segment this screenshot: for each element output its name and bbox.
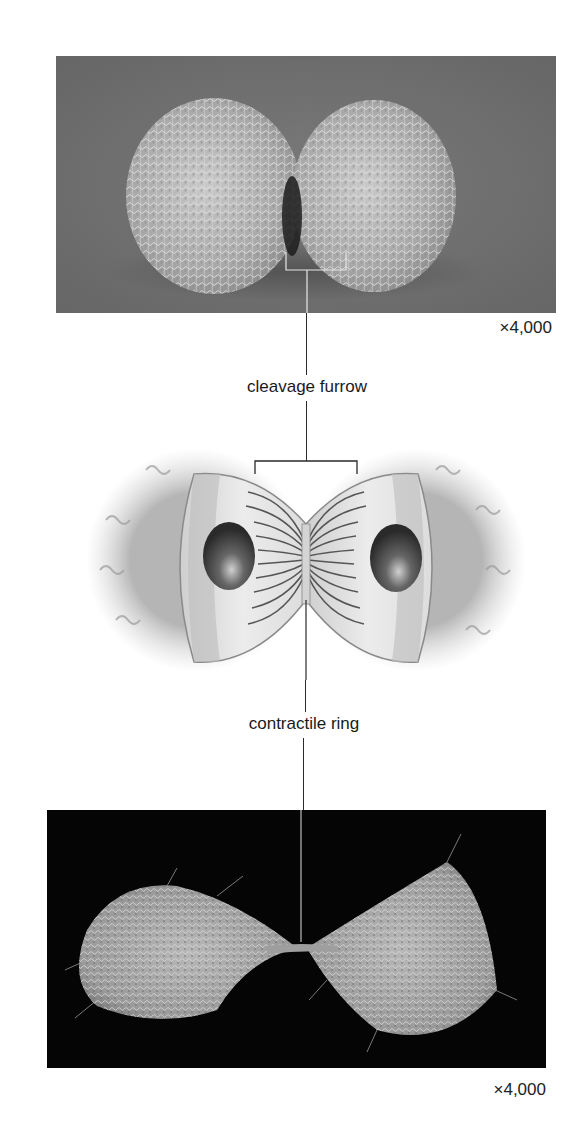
bottom-micrograph <box>47 810 546 1068</box>
top-micrograph <box>56 56 556 313</box>
contractile-ring-leader-line <box>305 680 306 712</box>
contractile-ring-diagram <box>86 440 526 680</box>
contractile-ring-leader-line-lower <box>303 738 304 810</box>
contractile-ring-label: contractile ring <box>249 714 360 734</box>
top-magnification: ×4,000 <box>500 318 552 338</box>
dividing-cell-illustration <box>86 440 526 680</box>
bottom-magnification: ×4,000 <box>494 1080 546 1100</box>
cleavage-furrow-label: cleavage furrow <box>247 377 367 397</box>
daughter-cells-sem-image <box>47 810 546 1068</box>
cleaving-cell-sem-image <box>56 56 556 313</box>
cleavage-furrow-leader-line <box>306 313 307 375</box>
